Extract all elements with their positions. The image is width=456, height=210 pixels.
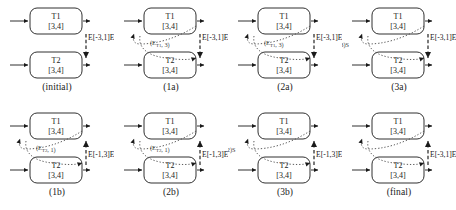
node-top-name: T1 xyxy=(394,12,403,21)
node-top-name: T1 xyxy=(280,12,289,21)
left-incoming-label: S(-ET2, 1,2)S xyxy=(228,144,236,154)
node-bottom-interval: [3,4] xyxy=(162,171,178,180)
panel-caption: (final) xyxy=(342,187,456,197)
node-bottom-name: T2 xyxy=(166,56,175,65)
node-top-interval: [3,4] xyxy=(390,127,406,136)
node-top-name: T1 xyxy=(166,12,175,21)
dotted-path-label: (ET1, 3) xyxy=(150,39,170,49)
panel-2b: T1[3,4]T2[3,4]E[-1,3]E(ET2, 1)(ET2, -2)(… xyxy=(114,105,228,210)
right-edge-label: E[-3,1]E xyxy=(202,33,228,42)
node-bottom-interval: [3,4] xyxy=(276,66,292,75)
node-bottom-name: T2 xyxy=(394,56,403,65)
node-top-name: T1 xyxy=(394,117,403,126)
panel-2a-graphic: T1[3,4]T2[3,4]E[-3,1]E(ET1, 3)(ET1, 0) xyxy=(228,0,342,90)
right-edge-label: E[-3,1]E xyxy=(88,33,114,42)
node-bottom-interval: [3,4] xyxy=(276,171,292,180)
panel-1b: T1[3,4]T2[3,4]E[-1,3]E(ET2, 1)(1b) xyxy=(0,105,114,210)
node-bottom-name: T2 xyxy=(52,56,61,65)
panel-2a: T1[3,4]T2[3,4]E[-3,1]E(ET1, 3)(ET1, 0)(2… xyxy=(228,0,342,105)
node-bottom-interval: [3,4] xyxy=(162,66,178,75)
left-incoming-label: S(0, ET1, 3)S xyxy=(342,39,349,49)
panel-caption: (3b) xyxy=(228,187,342,197)
figure-root: T1[3,4]T2[3,4]E[-3,1]E(initial)T1[3,4]T2… xyxy=(0,0,456,210)
panel-caption: (2b) xyxy=(114,187,228,197)
node-bottom-interval: [3,4] xyxy=(390,66,406,75)
panel-caption: (1a) xyxy=(114,82,228,92)
panel-final: T1[3,4]T2[3,4]E[-3,1]ES[0,2]S(final) xyxy=(342,105,456,210)
node-top-interval: [3,4] xyxy=(48,22,64,31)
panel-3a: T1[3,4]T2[3,4]E[-3,1]ES(0, ET1, 3)S(3a) xyxy=(342,0,456,105)
dotted-path-label: (ET2, 1) xyxy=(36,144,56,154)
dotted-path-label: (ET2, 1) xyxy=(150,144,170,154)
node-bottom-name: T2 xyxy=(52,161,61,170)
node-top-interval: [3,4] xyxy=(48,127,64,136)
node-top-interval: [3,4] xyxy=(162,127,178,136)
panel-initial: T1[3,4]T2[3,4]E[-3,1]E(initial) xyxy=(0,0,114,105)
right-edge-label: E[-3,1]E xyxy=(430,150,456,159)
dotted-path-label: (ET1, 3) xyxy=(264,39,284,49)
right-edge-label: E[-1,3]E xyxy=(202,150,228,159)
node-bottom-name: T2 xyxy=(280,56,289,65)
node-top-name: T1 xyxy=(52,12,61,21)
node-bottom-interval: [3,4] xyxy=(390,171,406,180)
node-bottom-interval: [3,4] xyxy=(48,171,64,180)
node-top-interval: [3,4] xyxy=(390,22,406,31)
panel-caption: (3a) xyxy=(342,82,456,92)
node-top-name: T1 xyxy=(166,117,175,126)
right-edge-label: E[-1,3]E xyxy=(88,150,114,159)
panel-caption: (initial) xyxy=(0,82,114,92)
panel-3b: T1[3,4]T2[3,4]E[-1,3]ES(-ET2, 1,2)S(3b) xyxy=(228,105,342,210)
node-bottom-name: T2 xyxy=(166,161,175,170)
panel-initial-graphic: T1[3,4]T2[3,4]E[-3,1]E xyxy=(0,0,114,90)
panel-final-graphic: T1[3,4]T2[3,4]E[-3,1]ES[0,2]S xyxy=(342,105,456,195)
panel-caption: (2a) xyxy=(228,82,342,92)
right-edge-label: E[-3,1]E xyxy=(316,33,342,42)
panel-1b-graphic: T1[3,4]T2[3,4]E[-1,3]E(ET2, 1) xyxy=(0,105,114,195)
node-bottom-name: T2 xyxy=(394,161,403,170)
right-edge-label: E[-1,3]E xyxy=(316,150,342,159)
node-bottom-name: T2 xyxy=(280,161,289,170)
node-top-name: T1 xyxy=(52,117,61,126)
panel-1a: T1[3,4]T2[3,4]E[-3,1]E(ET1, 3)(1a) xyxy=(114,0,228,105)
right-edge-label: E[-3,1]E xyxy=(430,33,456,42)
panel-2b-graphic: T1[3,4]T2[3,4]E[-1,3]E(ET2, 1)(ET2, -2) xyxy=(114,105,228,195)
panel-caption: (1b) xyxy=(0,187,114,197)
node-top-interval: [3,4] xyxy=(276,127,292,136)
node-bottom-interval: [3,4] xyxy=(48,66,64,75)
node-top-name: T1 xyxy=(280,117,289,126)
panel-3a-graphic: T1[3,4]T2[3,4]E[-3,1]ES(0, ET1, 3)S xyxy=(342,0,456,90)
node-top-interval: [3,4] xyxy=(162,22,178,31)
panel-1a-graphic: T1[3,4]T2[3,4]E[-3,1]E(ET1, 3) xyxy=(114,0,228,90)
panel-3b-graphic: T1[3,4]T2[3,4]E[-1,3]ES(-ET2, 1,2)S xyxy=(228,105,342,195)
node-top-interval: [3,4] xyxy=(276,22,292,31)
